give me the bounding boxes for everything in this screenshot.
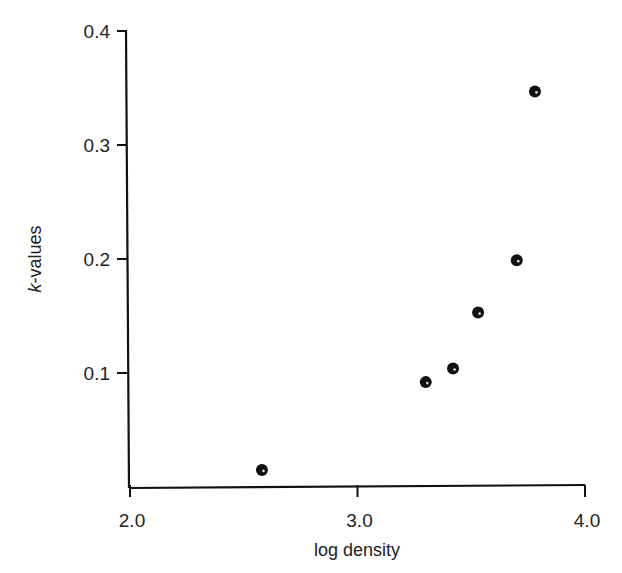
x-tick-label: 3.0 bbox=[346, 510, 372, 531]
data-point bbox=[472, 307, 484, 319]
y-ticks: 0.10.20.30.4 bbox=[84, 21, 127, 384]
x-tick-label: 2.0 bbox=[119, 510, 145, 531]
data-point bbox=[447, 362, 459, 374]
x-ticks: 2.03.04.0 bbox=[119, 485, 600, 531]
x-tick: 2.0 bbox=[119, 485, 145, 531]
y-axis-title: k-values bbox=[25, 225, 45, 292]
y-tick: 0.2 bbox=[84, 249, 127, 270]
y-tick: 0.4 bbox=[84, 21, 127, 42]
x-tick-label: 4.0 bbox=[574, 510, 600, 531]
x-axis-title: log density bbox=[314, 540, 400, 560]
data-point-highlight bbox=[517, 260, 520, 263]
y-tick-label: 0.1 bbox=[84, 363, 110, 384]
data-point bbox=[420, 376, 432, 388]
data-point bbox=[529, 85, 541, 97]
data-point-highlight bbox=[478, 312, 481, 315]
y-tick-label: 0.2 bbox=[84, 249, 110, 270]
y-tick: 0.1 bbox=[84, 363, 127, 384]
data-point-highlight bbox=[535, 91, 538, 94]
y-tick-label: 0.3 bbox=[84, 135, 110, 156]
data-point-highlight bbox=[453, 368, 456, 371]
x-tick: 4.0 bbox=[574, 485, 600, 531]
y-tick: 0.3 bbox=[84, 135, 127, 156]
data-point-highlight bbox=[426, 382, 429, 385]
data-point bbox=[256, 464, 268, 476]
scatter-chart: 0.10.20.30.4 2.03.04.0 log density k-val… bbox=[0, 0, 622, 573]
x-tick: 3.0 bbox=[346, 485, 372, 531]
data-points bbox=[256, 85, 541, 475]
data-point bbox=[511, 254, 523, 266]
y-tick-label: 0.4 bbox=[84, 21, 111, 42]
data-point-highlight bbox=[262, 470, 265, 473]
